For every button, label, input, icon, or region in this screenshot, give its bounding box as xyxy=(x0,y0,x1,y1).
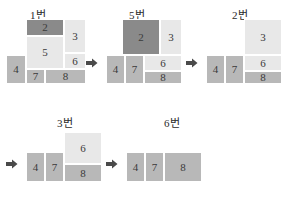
right-arrow-icon xyxy=(86,57,98,69)
block-4: 4 xyxy=(126,152,145,182)
block-6: 6 xyxy=(64,53,86,69)
block-8: 8 xyxy=(144,71,182,84)
right-arrow-icon xyxy=(6,158,18,170)
block-2: 2 xyxy=(26,19,64,36)
block-3: 3 xyxy=(244,19,282,55)
block-6: 6 xyxy=(144,55,182,71)
block-4: 4 xyxy=(26,152,45,182)
block-4: 4 xyxy=(206,55,225,84)
block-2: 2 xyxy=(122,19,160,55)
block-8: 8 xyxy=(64,164,102,182)
block-5: 5 xyxy=(26,36,64,69)
block-6: 6 xyxy=(244,55,282,71)
right-arrow-icon xyxy=(186,57,198,69)
block-7: 7 xyxy=(125,55,144,84)
block-4: 4 xyxy=(6,55,26,84)
block-7: 7 xyxy=(45,152,64,182)
block-8: 8 xyxy=(45,69,86,84)
block-6: 6 xyxy=(64,132,102,164)
right-arrow-icon xyxy=(106,158,118,170)
step-caption-step-6: 6번 xyxy=(164,114,180,130)
block-7: 7 xyxy=(225,55,244,84)
block-7: 7 xyxy=(26,69,45,84)
block-3: 3 xyxy=(160,19,182,55)
block-4: 4 xyxy=(106,55,125,84)
diagram-canvas: 1번23564785번2364782번364783번64786번478 xyxy=(0,0,282,202)
block-7: 7 xyxy=(145,152,164,182)
block-8: 8 xyxy=(164,152,202,182)
block-8: 8 xyxy=(244,71,282,84)
block-3: 3 xyxy=(64,19,86,53)
step-caption-step-3: 3번 xyxy=(57,114,73,130)
